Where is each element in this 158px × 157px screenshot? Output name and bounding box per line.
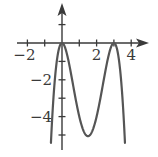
- x-tick-label: 2: [92, 46, 102, 64]
- y-tick-label: −2: [30, 71, 52, 89]
- function-graph: −224−2−4: [0, 0, 158, 157]
- x-tick-label: −2: [13, 46, 35, 64]
- x-tick-label: 4: [126, 46, 136, 64]
- y-tick-label: −4: [30, 108, 52, 126]
